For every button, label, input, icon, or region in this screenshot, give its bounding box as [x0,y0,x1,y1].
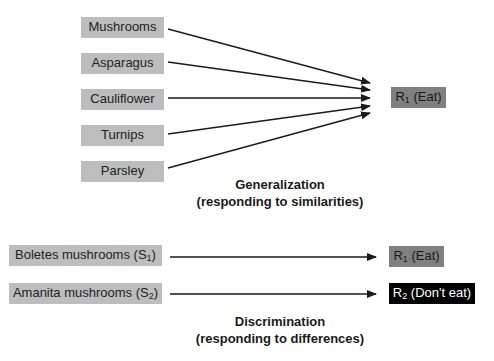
response-prefix: R [395,89,404,104]
stimulus-prefix: Amanita mushrooms (S [13,285,149,300]
response-r1-eat-generalization: R1 (Eat) [391,87,446,108]
generalization-caption: Generalization (responding to similariti… [180,176,380,210]
stimulus-asparagus: Asparagus [81,53,164,74]
stimulus-amanita-mushrooms: Amanita mushrooms (S2) [9,283,162,304]
response-prefix: R [393,285,402,300]
arrow-turnips-to-r1 [168,106,370,134]
arrow-mushrooms-to-r1 [168,29,370,83]
stimulus-turnips: Turnips [81,125,164,146]
stimulus-label: Cauliflower [90,91,154,106]
response-suffix: (Eat) [410,89,442,104]
response-r2-dont-eat: R2 (Don't eat) [389,283,475,304]
response-suffix: (Eat) [408,248,440,263]
stimulus-label: Turnips [101,127,144,142]
response-prefix: R [393,248,402,263]
stimulus-label: Mushrooms [89,19,157,34]
arrow-parsley-to-r1 [168,113,370,168]
stimulus-cauliflower: Cauliflower [81,89,164,110]
caption-title: Generalization [180,176,380,193]
stimulus-suffix: ) [152,247,156,262]
arrow-asparagus-to-r1 [168,62,370,90]
discrimination-caption: Discrimination (responding to difference… [180,313,380,347]
stimulus-boletes-mushrooms: Boletes mushrooms (S1) [9,245,162,266]
stimulus-parsley: Parsley [81,161,164,182]
stimulus-label: Asparagus [91,55,153,70]
caption-subtitle: (responding to differences) [180,330,380,347]
stimulus-mushrooms: Mushrooms [81,17,164,38]
stimulus-prefix: Boletes mushrooms (S [15,247,147,262]
response-suffix: (Don't eat) [407,285,471,300]
caption-subtitle: (responding to similarities) [180,193,380,210]
caption-title: Discrimination [180,313,380,330]
stimulus-suffix: ) [154,285,158,300]
stimulus-label: Parsley [101,163,144,178]
response-r1-eat-discrimination: R1 (Eat) [389,246,444,267]
